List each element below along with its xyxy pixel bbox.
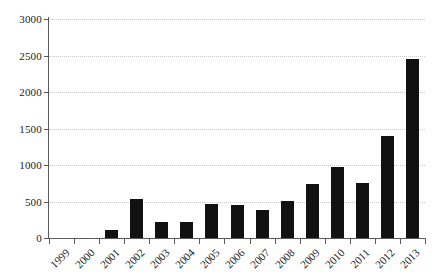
- bar: [155, 222, 168, 238]
- x-axis-tick: [49, 239, 50, 244]
- x-axis-tick: [375, 239, 376, 244]
- y-axis-tick: [44, 56, 49, 57]
- x-axis-tick: [325, 239, 326, 244]
- x-axis-tick: [224, 239, 225, 244]
- bar: [180, 222, 193, 238]
- y-axis-tick: [44, 202, 49, 203]
- x-axis-tick-label: 2005: [196, 247, 222, 273]
- y-axis-tick-label: 1000: [19, 160, 42, 171]
- gridline: [49, 165, 425, 166]
- bar: [306, 184, 319, 238]
- x-axis-tick-label: 2000: [70, 247, 96, 273]
- x-axis-tick: [400, 239, 401, 244]
- bar: [105, 230, 118, 238]
- bar: [205, 204, 218, 238]
- x-axis-tick: [199, 239, 200, 244]
- y-axis-tick-label: 500: [25, 197, 42, 208]
- x-axis-tick-label: 2007: [246, 247, 272, 273]
- bar: [231, 205, 244, 238]
- x-axis-tick: [275, 239, 276, 244]
- x-axis-tick: [174, 239, 175, 244]
- x-axis-tick-label: 2001: [95, 247, 121, 273]
- bar: [256, 210, 269, 238]
- x-axis-tick: [99, 239, 100, 244]
- gridline: [49, 56, 425, 57]
- x-axis-tick-label: 2009: [296, 247, 322, 273]
- gridline: [49, 92, 425, 93]
- x-axis-tick-label: 1999: [45, 247, 71, 273]
- x-axis-tick-label: 2003: [145, 247, 171, 273]
- x-axis-tick-label: 2011: [346, 247, 372, 273]
- x-axis-tick-label: 2008: [271, 247, 297, 273]
- x-axis-tick: [250, 239, 251, 244]
- y-axis-tick: [44, 19, 49, 20]
- y-axis-tick-label: 0: [36, 233, 42, 244]
- gridline: [49, 129, 425, 130]
- x-axis-tick: [74, 239, 75, 244]
- x-axis-tick-label: 2002: [120, 247, 146, 273]
- bar: [281, 201, 294, 238]
- y-axis-tick: [44, 129, 49, 130]
- bar-chart: 050010001500200025003000 199920002001200…: [0, 0, 438, 280]
- x-axis-tick-label: 2012: [371, 247, 397, 273]
- x-axis-tick-label: 2004: [170, 247, 196, 273]
- bar: [130, 199, 143, 238]
- x-axis-tick: [124, 239, 125, 244]
- x-axis-tick: [350, 239, 351, 244]
- x-axis-tick: [300, 239, 301, 244]
- y-axis-tick-label: 2500: [19, 51, 42, 62]
- bar: [406, 59, 419, 238]
- y-axis-tick-label: 2000: [19, 87, 42, 98]
- x-axis-tick-label: 2006: [221, 247, 247, 273]
- bar: [331, 167, 344, 238]
- y-axis-tick: [44, 92, 49, 93]
- bar: [356, 183, 369, 238]
- x-axis-tick-label: 2013: [396, 247, 422, 273]
- x-axis-tick: [425, 239, 426, 244]
- y-axis-tick-label: 1500: [19, 124, 42, 135]
- y-axis-tick-label: 3000: [19, 14, 42, 25]
- y-axis-tick: [44, 165, 49, 166]
- x-axis-line: [48, 238, 426, 239]
- x-axis-tick: [149, 239, 150, 244]
- x-axis-tick-label: 2010: [321, 247, 347, 273]
- bar: [381, 136, 394, 238]
- gridline: [49, 19, 425, 20]
